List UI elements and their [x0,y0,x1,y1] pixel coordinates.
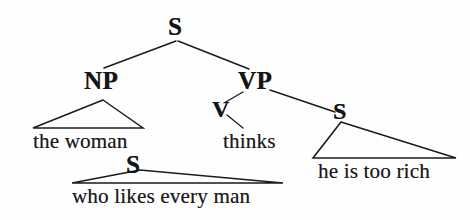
node-s-root: S [168,14,182,39]
node-vp: VP [238,68,272,93]
triangle-relative-s-who-likes-every-man [72,170,283,183]
node-s-embedded: S [333,99,346,123]
terminal-complement: he is too rich [318,161,430,182]
node-v: V [212,97,229,121]
triangle-embedded-s-he-is-too-rich [313,122,456,158]
terminal-subject: the woman [33,131,128,152]
node-s-relative: S [126,152,140,177]
edge-vp-to-embedded-s [270,90,335,112]
terminal-relative-clause: who likes every man [72,186,250,207]
triangle-np-the-woman [33,100,143,128]
node-np: NP [84,68,118,93]
edge-s-to-np [104,41,176,68]
edge-v-to-thinks [227,115,243,128]
terminal-verb: thinks [223,131,276,152]
edge-s-to-vp [178,41,249,69]
syntax-tree-diagram: S NP VP V S S the woman thinks he is too… [0,0,470,220]
